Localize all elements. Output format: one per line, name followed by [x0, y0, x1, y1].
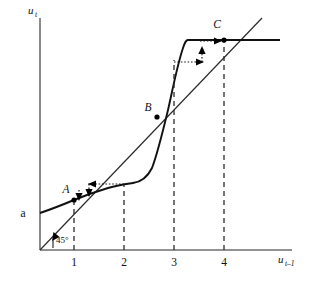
- y-axis-label: u: [28, 4, 34, 16]
- labels-group: u t u t–1 a 45° A B C 1 2 3 4: [20, 4, 294, 268]
- x-axis-label: u: [278, 253, 284, 265]
- x-tick-label-3: 3: [171, 256, 177, 268]
- diagonal-45-line: [40, 18, 262, 250]
- figure-container: u t u t–1 a 45° A B C 1 2 3 4: [0, 0, 309, 281]
- cobweb-arrowhead-c-up: [198, 46, 205, 54]
- cobweb-arrowhead-c-left: [214, 37, 222, 44]
- point-label-c: C: [213, 18, 221, 30]
- x-tick-label-4: 4: [221, 256, 227, 268]
- x-axis-label-subscript: t–1: [285, 259, 295, 268]
- intercept-label-a: a: [20, 207, 25, 219]
- fixed-point-b-marker: [154, 114, 159, 119]
- point-label-a: A: [61, 183, 70, 195]
- fixed-point-c-marker: [221, 37, 226, 42]
- transition-function-curve: [40, 40, 280, 213]
- map-curve-group: [40, 40, 280, 213]
- identity-line-group: [40, 18, 262, 250]
- fixed-point-a-marker: [71, 197, 76, 202]
- phase-diagram-svg: u t u t–1 a 45° A B C 1 2 3 4: [0, 0, 309, 281]
- angle-label-45: 45°: [56, 235, 69, 245]
- axes-group: [40, 18, 292, 250]
- x-tick-label-2: 2: [121, 256, 127, 268]
- point-label-b: B: [144, 101, 151, 113]
- y-axis-label-subscript: t: [35, 10, 38, 19]
- x-tick-label-1: 1: [71, 256, 77, 268]
- vertical-guides-group: [74, 40, 224, 250]
- cobweb-arrowhead-c-right: [196, 58, 204, 65]
